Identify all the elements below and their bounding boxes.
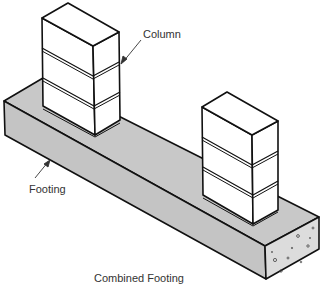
column-leader-arrow — [121, 40, 141, 64]
column-label: Column — [143, 28, 181, 40]
footing-label: Footing — [29, 183, 66, 195]
combined-footing-diagram — [0, 0, 321, 293]
footing-leader-arrow — [35, 160, 50, 178]
diagram-caption: Combined Footing — [94, 272, 184, 284]
